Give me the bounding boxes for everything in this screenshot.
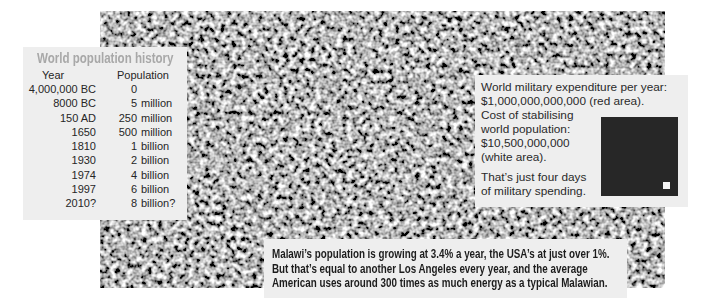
population-unit-cell: million — [137, 96, 172, 110]
population-unit-cell: million — [137, 111, 172, 125]
caption-line: Malawi’s population is growing at 3.4% a… — [272, 247, 609, 262]
caption-panel: Malawi’s population is growing at 3.4% a… — [264, 239, 627, 298]
year-cell: 1810 — [23, 139, 96, 153]
population-table-title: World population history — [37, 50, 173, 66]
population-number-cell: 250 — [96, 111, 137, 125]
population-unit-cell: billion — [137, 182, 169, 196]
population-number-cell: 1 — [96, 139, 137, 153]
year-cell: 8000 BC — [23, 96, 96, 110]
text-line: $10,500,000,000 — [481, 136, 573, 150]
military-expenditure-panel: World military expenditure per year: $1,… — [475, 75, 688, 207]
population-unit-cell: billion? — [137, 196, 175, 210]
caption-text: Malawi’s population is growing at 3.4% a… — [272, 247, 609, 291]
text-line: That’s just four days — [481, 170, 586, 184]
population-number-cell: 0 — [96, 82, 137, 96]
population-number-cell: 500 — [96, 125, 137, 139]
caption-line: But that’s equal to another Los Angeles … — [272, 262, 609, 277]
population-unit-cell: billion — [137, 168, 169, 182]
table-row: 150 AD 250 million — [23, 111, 187, 125]
population-cost-area-square — [663, 182, 670, 189]
year-cell: 1930 — [23, 153, 96, 167]
four-days-text: That’s just four days of military spendi… — [481, 170, 586, 198]
table-row: 1974 4 billion — [23, 168, 187, 182]
year-cell: 4,000,000 BC — [23, 82, 96, 96]
military-expenditure-text: World military expenditure per year: $1,… — [481, 80, 667, 108]
text-line: $1,000,000,000,000 (red area). — [481, 94, 667, 108]
population-number-cell: 8 — [96, 196, 137, 210]
table-row: 1650 500 million — [23, 125, 187, 139]
year-cell: 1650 — [23, 125, 96, 139]
population-number-cell: 2 — [96, 153, 137, 167]
table-row: 2010? 8 billion? — [23, 196, 187, 210]
year-cell: 1997 — [23, 182, 96, 196]
text-line: world population: — [481, 122, 573, 136]
population-number-cell: 6 — [96, 182, 137, 196]
population-unit-cell: billion — [137, 139, 169, 153]
population-number-cell: 4 — [96, 168, 137, 182]
table-row: 1930 2 billion — [23, 153, 187, 167]
header-year: Year — [42, 68, 64, 82]
stabilising-cost-text: Cost of stabilising world population: $1… — [481, 108, 573, 164]
year-cell: 2010? — [23, 196, 96, 210]
military-spending-area-square — [601, 117, 678, 196]
table-row: 8000 BC 5 million — [23, 96, 187, 110]
caption-line: American uses around 300 times as much e… — [272, 276, 609, 291]
table-row: 1997 6 billion — [23, 182, 187, 196]
population-table-header: Year Population — [23, 68, 187, 82]
header-population: Population — [117, 68, 169, 82]
year-cell: 1974 — [23, 168, 96, 182]
text-line: World military expenditure per year: — [481, 80, 667, 94]
text-line: of military spending. — [481, 184, 586, 198]
population-table-body: 4,000,000 BC 0 8000 BC 5 million 150 AD … — [23, 82, 187, 211]
population-number-cell: 5 — [96, 96, 137, 110]
population-unit-cell: million — [137, 125, 172, 139]
population-unit-cell — [137, 82, 141, 96]
table-row: 1810 1 billion — [23, 139, 187, 153]
text-line: (white area). — [481, 150, 573, 164]
population-history-panel: World population history Year Population… — [23, 47, 187, 220]
table-row: 4,000,000 BC 0 — [23, 82, 187, 96]
year-cell: 150 AD — [23, 111, 96, 125]
text-line: Cost of stabilising — [481, 108, 573, 122]
population-unit-cell: billion — [137, 153, 169, 167]
